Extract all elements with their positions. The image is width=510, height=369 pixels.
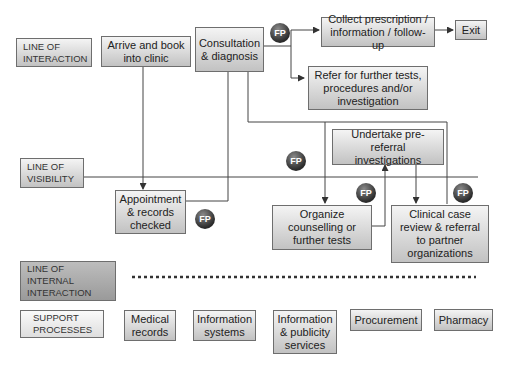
step-refer: Refer for further tests, procedures and/… xyxy=(308,66,428,110)
fail-point-icon: FP xyxy=(356,183,376,203)
support-procurement: Procurement xyxy=(350,309,422,331)
support-processes-label: SUPPORT PROCESSES xyxy=(20,310,104,338)
step-clinical: Clinical case review & referral to partn… xyxy=(391,205,489,263)
step-organize: Organize counselling or further tests xyxy=(272,205,372,250)
support-pharmacy: Pharmacy xyxy=(434,309,493,331)
step-appointment: Appointment & records checked xyxy=(115,190,186,234)
fail-point-icon: FP xyxy=(195,209,215,229)
line-of-internal-interaction-label: LINE OF INTERNAL INTERACTION xyxy=(20,261,116,301)
fail-point-icon: FP xyxy=(453,183,473,203)
step-undertake: Undertake pre-referral investigations xyxy=(332,129,444,165)
line-of-interaction-label: LINE OF INTERACTION xyxy=(16,38,92,67)
support-information-systems: Information systems xyxy=(193,310,256,341)
step-collect: Collect prescription / information / fol… xyxy=(321,17,435,47)
fail-point-icon: FP xyxy=(286,151,306,171)
fail-point-icon: FP xyxy=(270,23,290,43)
support-medical-records: Medical records xyxy=(124,310,176,341)
step-arrive: Arrive and book into clinic xyxy=(101,36,191,67)
support-information-publicity: Information & publicity services xyxy=(273,310,337,354)
step-consultation: Consultation & diagnosis xyxy=(195,27,264,72)
line-of-visibility-label: LINE OF VISIBILITY xyxy=(20,158,84,188)
step-exit: Exit xyxy=(455,20,487,40)
